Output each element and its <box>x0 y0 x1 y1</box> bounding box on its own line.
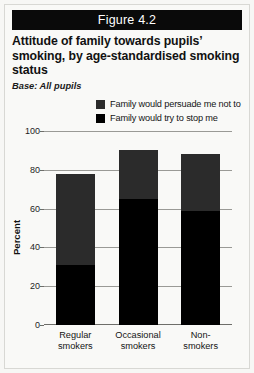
plot-area: 020406080100RegularsmokersOccasionalsmok… <box>44 131 232 325</box>
x-axis-category-label: Regularsmokers <box>58 330 93 352</box>
y-axis-title: Percent <box>11 210 22 266</box>
y-axis-tick-mark <box>40 247 44 248</box>
y-axis-tick-label: 40 <box>30 242 40 252</box>
y-axis-tick-label: 100 <box>25 126 40 136</box>
y-axis-tick-mark <box>40 286 44 287</box>
x-axis-category-label: Occasionalsmokers <box>115 330 160 352</box>
y-axis-tick-mark <box>40 325 44 326</box>
bar-segment-persuade-me[interactable] <box>119 150 158 199</box>
y-axis-tick-mark <box>40 131 44 132</box>
figure-card: Figure 4.2 Attitude of family towards pu… <box>0 0 254 373</box>
bar-segment-persuade-me[interactable] <box>56 174 95 265</box>
bar-segment-stop-me[interactable] <box>119 199 158 325</box>
bar-group[interactable]: Occasionalsmokers <box>119 150 158 325</box>
x-axis-category-label: Non-smokers <box>183 330 218 352</box>
bar-group[interactable]: Non-smokers <box>181 154 220 325</box>
y-axis-tick-label: 20 <box>30 281 40 291</box>
y-axis-tick-label: 0 <box>35 320 40 330</box>
bar-segment-persuade-me[interactable] <box>181 154 220 210</box>
gridline <box>44 131 232 132</box>
bar-group[interactable]: Regularsmokers <box>56 174 95 325</box>
y-axis-tick-mark <box>40 170 44 171</box>
bar-segment-stop-me[interactable] <box>56 265 95 325</box>
y-axis-tick-mark <box>40 209 44 210</box>
y-axis-tick-label: 60 <box>30 204 40 214</box>
bar-segment-stop-me[interactable] <box>181 211 220 325</box>
chart-plot-wrapper: Percent 020406080100RegularsmokersOccasi… <box>0 0 254 373</box>
y-axis-tick-label: 80 <box>30 165 40 175</box>
